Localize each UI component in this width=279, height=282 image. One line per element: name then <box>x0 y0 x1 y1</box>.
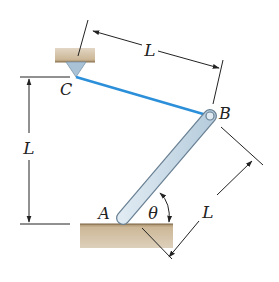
pin-support-triangle <box>66 62 86 77</box>
label-left-length: L <box>22 138 34 158</box>
cable-cb <box>76 77 210 116</box>
bar-ab <box>123 112 214 218</box>
label-theta: θ <box>148 204 158 223</box>
label-bar-length: L <box>201 202 213 222</box>
ceiling-support <box>55 48 95 77</box>
label-top-length: L <box>143 40 155 60</box>
ground-support <box>80 224 173 248</box>
angle-arc <box>160 193 169 222</box>
label-point-b: B <box>218 104 231 123</box>
pin-b <box>206 112 214 120</box>
label-point-c: C <box>60 80 72 99</box>
dimension-top <box>78 20 223 104</box>
label-point-a: A <box>96 204 110 223</box>
diagram-canvas: L L L θ C B A <box>0 0 279 282</box>
